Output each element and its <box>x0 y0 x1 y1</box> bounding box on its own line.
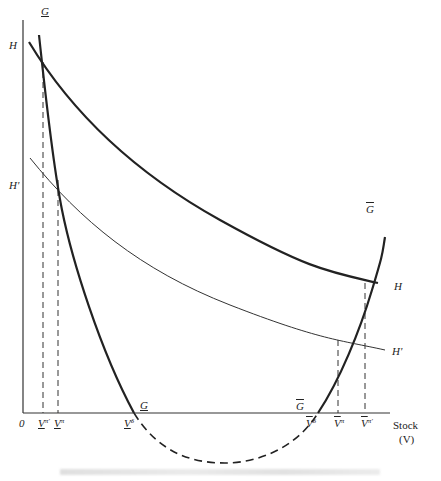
tick-sup: δ <box>313 417 316 425</box>
curve-G-left <box>39 35 134 413</box>
tick-base: V <box>306 417 313 429</box>
tick-base: V <box>38 417 45 429</box>
tick-base: V <box>361 417 368 429</box>
tick-base: V <box>54 417 61 429</box>
tick-sup: π <box>61 417 65 425</box>
curve-G-right <box>318 237 385 413</box>
label-G-mid-left: G <box>140 400 148 411</box>
vertical-guides <box>43 62 365 413</box>
diagram-canvas <box>0 0 441 481</box>
curve-G-trough <box>134 413 318 463</box>
tick-sup: π' <box>45 417 50 425</box>
label-H-left: H <box>9 40 17 51</box>
label-G-top-right: G <box>366 204 374 215</box>
tick-v-delta-low: Vδ <box>124 418 134 429</box>
tick-sup: π' <box>368 417 373 425</box>
label-G-mid-right: G <box>296 401 304 412</box>
tick-v-pi-high: Vπ <box>334 418 344 429</box>
tick-v-delta-high: Vδ <box>306 418 316 429</box>
tick-v-pi-low: Vπ <box>54 418 64 429</box>
tick-sup: δ <box>131 417 134 425</box>
x-axis-label-v: (V) <box>399 434 414 445</box>
curve-H-prime <box>30 158 385 350</box>
tick-base: V <box>334 417 341 429</box>
tick-base: V <box>124 417 131 429</box>
x-axis-label-stock: Stock <box>393 420 418 431</box>
tick-v-pi-prime-high: Vπ' <box>361 418 373 429</box>
curve-H <box>29 42 378 283</box>
label-H-prime-right: H' <box>392 346 402 357</box>
figure-caption-blurred <box>60 469 380 475</box>
label-G-top-left: G <box>41 6 49 17</box>
label-H-prime-left: H' <box>9 180 19 191</box>
tick-v-pi-prime-low: Vπ' <box>38 418 50 429</box>
origin-label: 0 <box>19 418 25 429</box>
label-H-right: H <box>394 281 402 292</box>
tick-sup: π <box>341 417 345 425</box>
